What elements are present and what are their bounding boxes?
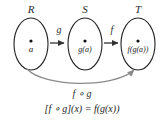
set-label-S: S xyxy=(82,3,88,15)
set-label-R: R xyxy=(27,3,35,15)
set-label-T: T xyxy=(135,3,142,15)
composition-label: f ∘ g xyxy=(73,88,92,99)
element-dot-S xyxy=(83,39,86,42)
composition-arrow xyxy=(27,69,134,83)
set-ellipse-S xyxy=(68,18,102,70)
element-dot-R xyxy=(29,39,32,42)
element-label-fga: f(g(a)) xyxy=(128,45,149,54)
composition-formula: [f ∘ g](x) = f(g(x)) xyxy=(45,103,121,115)
function-composition-diagram: R a g S g(a) f T f(g(a)) f ∘ g [f ∘ g](x… xyxy=(0,0,163,121)
diagram-canvas: R a g S g(a) f T f(g(a)) f ∘ g [f ∘ g](x… xyxy=(0,0,163,121)
set-ellipse-T xyxy=(121,18,155,70)
map-label-f: f xyxy=(111,24,115,35)
element-dot-T xyxy=(136,39,139,42)
map-label-g: g xyxy=(57,24,62,35)
element-label-a: a xyxy=(29,44,34,54)
element-label-ga: g(a) xyxy=(78,45,92,54)
